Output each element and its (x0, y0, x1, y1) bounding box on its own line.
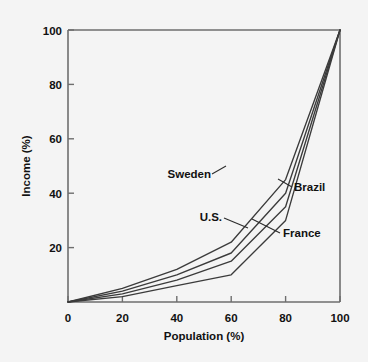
x-tick-label-60: 60 (225, 312, 238, 324)
series-label-us: U.S. (200, 211, 222, 223)
series-label-france: France (283, 227, 321, 239)
series-label-brazil: Brazil (294, 181, 325, 193)
x-axis-title: Population (%) (164, 330, 245, 342)
y-tick-label-100: 100 (43, 25, 62, 37)
x-tick-label-80: 80 (279, 312, 292, 324)
lorenz-curve-figure: 100 80 60 40 20 0 20 40 60 80 100 Popula… (0, 0, 368, 362)
series-label-sweden: Sweden (168, 168, 211, 180)
y-tick-label-80: 80 (49, 79, 62, 91)
y-axis-title: Income (%) (20, 135, 32, 197)
y-tick-label-40: 40 (49, 188, 62, 200)
x-tick-label-40: 40 (170, 312, 183, 324)
x-tick-label-0: 0 (65, 312, 71, 324)
y-tick-label-20: 20 (49, 242, 62, 254)
x-tick-label-100: 100 (330, 312, 349, 324)
y-tick-label-60: 60 (49, 133, 62, 145)
chart-canvas: 100 80 60 40 20 0 20 40 60 80 100 Popula… (0, 0, 368, 362)
x-tick-label-20: 20 (116, 312, 129, 324)
